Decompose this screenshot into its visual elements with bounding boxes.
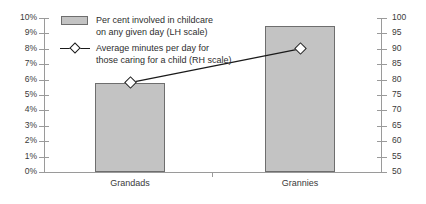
right-axis-tick-label: 100	[392, 13, 406, 22]
legend-item-bar-line1: Per cent involved in childcare	[96, 15, 232, 27]
right-axis-tick-label: 50	[392, 167, 401, 176]
category-axis-midpoint-tick	[212, 173, 213, 177]
left-axis-tick-label: 4%	[25, 105, 37, 114]
bar-grandads	[95, 83, 165, 172]
left-axis-tick	[39, 95, 49, 96]
right-axis-tick	[377, 33, 387, 34]
left-axis-tick	[39, 64, 49, 65]
right-axis-tick-label: 90	[392, 44, 401, 53]
right-axis-tick-label: 60	[392, 136, 401, 145]
category-label-grannies: Grannies	[250, 178, 350, 189]
left-axis-tick	[39, 49, 49, 50]
right-axis-tick-label: 65	[392, 121, 401, 130]
dual-axis-chart: 0%1%2%3%4%5%6%7%8%9%10% 5055606570758085…	[0, 0, 426, 204]
right-axis-tick-label: 95	[392, 28, 401, 37]
left-axis-tick-label: 7%	[25, 59, 37, 68]
left-axis-tick	[39, 126, 49, 127]
right-axis-tick	[377, 18, 387, 19]
right-axis-tick	[377, 64, 387, 65]
right-axis-tick	[377, 157, 387, 158]
legend-item-line-line1: Average minutes per day for	[96, 43, 232, 55]
category-axis-line	[44, 172, 382, 173]
left-axis-tick-label: 1%	[25, 152, 37, 161]
right-axis-tick-label: 85	[392, 59, 401, 68]
left-axis-tick-label: 8%	[25, 44, 37, 53]
right-axis-tick-label: 55	[392, 152, 401, 161]
right-axis-tick-label: 70	[392, 105, 401, 114]
left-axis-tick-label: 10%	[20, 13, 37, 22]
right-axis-tick	[377, 126, 387, 127]
left-axis-tick	[39, 33, 49, 34]
legend-item-line-line2: those caring for a child (RH scale)	[96, 55, 232, 67]
right-axis-tick	[377, 95, 387, 96]
right-axis-tick	[377, 172, 387, 173]
legend: Per cent involved in childcare on any gi…	[60, 15, 232, 71]
left-axis-tick-label: 6%	[25, 75, 37, 84]
left-axis-tick-label: 0%	[25, 167, 37, 176]
left-axis-tick	[39, 80, 49, 81]
right-axis-tick-label: 75	[392, 90, 401, 99]
legend-item-line: Average minutes per day for those caring…	[60, 43, 232, 66]
left-axis-tick-label: 9%	[25, 28, 37, 37]
right-axis-tick	[377, 110, 387, 111]
left-axis-tick-label: 2%	[25, 136, 37, 145]
right-axis-tick	[377, 49, 387, 50]
right-axis-tick-label: 80	[392, 75, 401, 84]
left-axis-tick	[39, 172, 49, 173]
left-axis-tick	[39, 141, 49, 142]
line-diamond-icon	[60, 43, 90, 54]
left-axis-tick-label: 5%	[25, 90, 37, 99]
legend-item-bar: Per cent involved in childcare on any gi…	[60, 15, 232, 38]
bar-swatch-icon	[60, 15, 90, 26]
left-axis-tick	[39, 110, 49, 111]
right-axis-tick	[377, 141, 387, 142]
left-axis-tick-label: 3%	[25, 121, 37, 130]
category-label-grandads: Grandads	[80, 178, 180, 189]
right-axis-tick	[377, 80, 387, 81]
left-axis-tick	[39, 18, 49, 19]
left-axis-tick	[39, 157, 49, 158]
legend-item-bar-line2: on any given day (LH scale)	[96, 27, 232, 39]
